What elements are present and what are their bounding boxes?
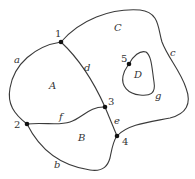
edge-label-c: c — [170, 47, 176, 58]
edge-label-b: b — [54, 159, 60, 170]
node-2 — [25, 122, 30, 127]
edge-label-e: e — [114, 115, 120, 126]
node-4 — [115, 134, 120, 139]
planar-graph-diagram: 1 2 3 4 5 a b c d e f g A B C D — [0, 0, 195, 179]
edge-d — [61, 42, 105, 107]
node-5 — [127, 62, 132, 67]
edge-label-d: d — [84, 62, 90, 73]
node-label-4: 4 — [122, 136, 128, 147]
region-label-C: C — [114, 22, 122, 33]
node-1 — [59, 40, 64, 45]
region-label-A: A — [48, 80, 56, 91]
region-label-B: B — [77, 132, 85, 143]
edge-b — [27, 124, 117, 170]
edge-label-a: a — [14, 54, 20, 65]
node-3 — [103, 105, 108, 110]
node-label-3: 3 — [108, 96, 114, 107]
node-label-1: 1 — [55, 28, 61, 39]
node-label-2: 2 — [14, 119, 20, 130]
region-label-D: D — [133, 69, 142, 80]
edge-label-f: f — [58, 111, 65, 122]
edge-label-g: g — [155, 90, 161, 101]
node-label-5: 5 — [121, 53, 127, 64]
edge-f — [27, 107, 105, 124]
